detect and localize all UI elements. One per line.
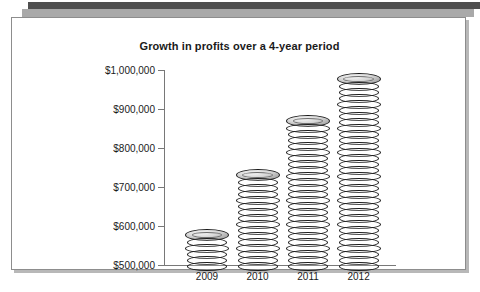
top-dark-bar [28, 2, 480, 9]
page-root: Growth in profits over a 4-year period $… [0, 0, 480, 292]
x-tick-label: 2011 [297, 271, 319, 282]
y-tick-mark [158, 148, 164, 149]
y-tick-label: $1,000,000 [105, 65, 155, 76]
plot-area: $500,000$600,000$700,000$800,000$900,000… [164, 70, 394, 265]
coin [187, 262, 227, 271]
y-tick-label: $600,000 [113, 221, 155, 232]
y-tick-mark [158, 265, 164, 266]
y-axis-line [164, 70, 165, 266]
coin [288, 262, 328, 271]
y-tick-mark [158, 226, 164, 227]
y-tick-label: $700,000 [113, 182, 155, 193]
coin-stack [288, 118, 328, 271]
chart-title: Growth in profits over a 4-year period [12, 40, 467, 52]
y-tick-label: $800,000 [113, 143, 155, 154]
y-tick-label: $900,000 [113, 104, 155, 115]
x-tick-label: 2009 [196, 271, 218, 282]
chart-panel: Growth in profits over a 4-year period $… [11, 17, 466, 270]
coin [339, 262, 379, 271]
coin-stack [339, 76, 379, 271]
x-tick-label: 2010 [246, 271, 268, 282]
y-tick-label: $500,000 [113, 260, 155, 271]
y-tick-mark [158, 187, 164, 188]
y-tick-mark [158, 109, 164, 110]
coin [238, 262, 278, 271]
top-light-bar [22, 9, 474, 17]
y-tick-mark [158, 70, 164, 71]
coin-stack [187, 232, 227, 271]
panel-shadow-right [466, 20, 469, 273]
coin-stack [238, 172, 278, 271]
x-tick-label: 2012 [347, 271, 369, 282]
